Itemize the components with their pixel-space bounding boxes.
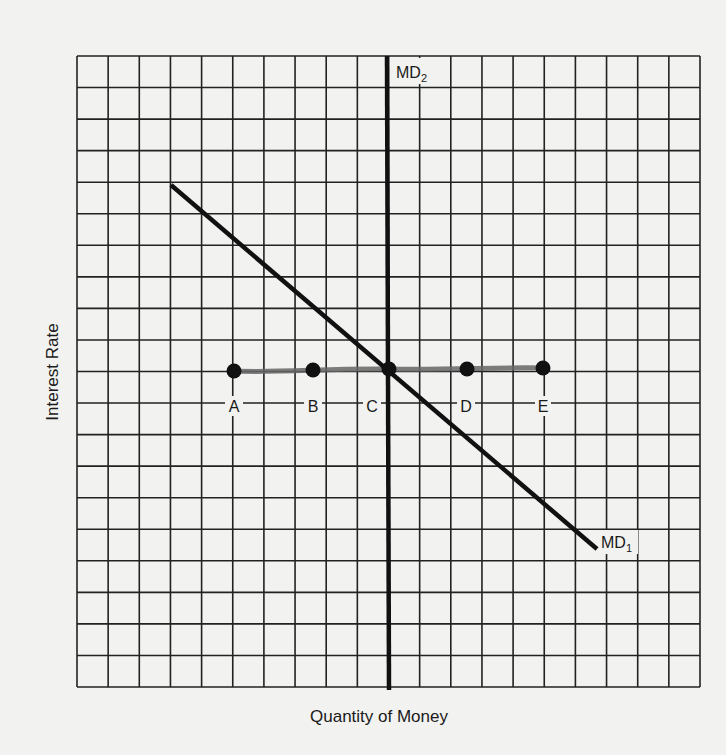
- money-demand-chart: A B C D E MD2 MD1 Quantity of Money Inte…: [0, 0, 726, 755]
- point-a-label: A: [229, 398, 240, 415]
- x-axis-title: Quantity of Money: [310, 707, 448, 726]
- point-b: [306, 363, 321, 378]
- point-e: [536, 361, 551, 376]
- point-c-label: C: [366, 398, 378, 415]
- point-c: [382, 362, 397, 377]
- point-e-label: E: [538, 398, 549, 415]
- point-d-label: D: [460, 398, 472, 415]
- point-d: [460, 362, 475, 377]
- y-axis-title: Interest Rate: [43, 323, 62, 420]
- point-a: [227, 364, 242, 379]
- point-b-label: B: [308, 398, 319, 415]
